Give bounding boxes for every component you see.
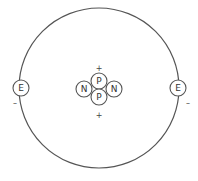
electron-right: E – bbox=[170, 80, 190, 108]
electron-right-charge: – bbox=[186, 99, 190, 108]
proton-top-label: P bbox=[96, 76, 102, 86]
atom-diagram: E – E – N N P P + + bbox=[0, 0, 198, 181]
nucleus: N N P P + + bbox=[76, 64, 122, 120]
proton-bottom-label: P bbox=[96, 92, 102, 102]
electron-left-label: E bbox=[18, 83, 24, 93]
neutron-right-label: N bbox=[111, 84, 118, 94]
charge-top: + bbox=[96, 64, 103, 73]
neutron-left-label: N bbox=[81, 84, 88, 94]
electron-left-charge: – bbox=[13, 99, 17, 108]
electron-right-label: E bbox=[175, 83, 181, 93]
charge-bottom: + bbox=[96, 111, 103, 120]
